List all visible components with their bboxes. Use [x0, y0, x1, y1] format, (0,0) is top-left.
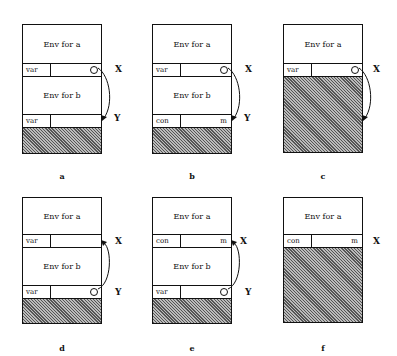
row-tag: var	[23, 235, 51, 247]
row-tag: var	[153, 286, 181, 298]
stack-frame: Env for a var Env for b var	[22, 197, 102, 324]
row-x: con m	[284, 235, 362, 248]
row-tag: con	[153, 235, 181, 247]
pointer-origin-icon	[90, 288, 98, 296]
env-for-a: Env for a	[23, 198, 101, 235]
row-x: con m	[153, 235, 231, 248]
label-x: X	[115, 64, 122, 74]
row-tag: var	[284, 64, 312, 76]
pointer-origin-icon	[220, 66, 228, 74]
label-y: Y	[244, 113, 250, 123]
env-for-b: Env for b	[153, 248, 231, 286]
stack-frame: Env for a con m	[283, 197, 363, 323]
stack-frame: Env for a var	[283, 24, 363, 153]
free-space	[284, 248, 362, 322]
label-x: X	[373, 236, 380, 246]
free-space	[153, 299, 231, 323]
env-for-b: Env for b	[23, 77, 101, 115]
label-x: X	[240, 236, 247, 246]
label-x: X	[373, 64, 380, 74]
caption: b	[152, 171, 232, 181]
pointer-origin-icon	[90, 66, 98, 74]
row-x: var	[284, 64, 362, 77]
env-for-a: Env for a	[284, 25, 362, 64]
row-tag: var	[23, 64, 51, 76]
env-for-a: Env for a	[153, 198, 231, 235]
row-value	[51, 286, 101, 298]
label-y: Y	[245, 287, 251, 297]
row-value	[51, 115, 101, 127]
row-value: m	[181, 235, 231, 247]
row-tag: var	[23, 115, 51, 127]
row-value	[181, 64, 231, 76]
row-value: m	[181, 115, 231, 127]
row-value: m	[312, 235, 362, 247]
env-for-a: Env for a	[284, 198, 362, 235]
free-space	[153, 128, 231, 153]
label-x: X	[115, 236, 122, 246]
env-for-a: Env for a	[23, 25, 101, 64]
free-space	[23, 299, 101, 323]
env-for-b: Env for b	[153, 77, 231, 115]
row-tag: var	[23, 286, 51, 298]
stack-frame: Env for a var Env for b con m	[152, 24, 232, 154]
row-value	[181, 286, 231, 298]
env-for-a: Env for a	[153, 25, 231, 64]
row-y: var	[153, 286, 231, 299]
row-y: var	[23, 115, 101, 128]
pointer-origin-icon	[351, 66, 359, 74]
label-x: X	[245, 64, 252, 74]
row-tag: var	[153, 64, 181, 76]
free-space	[284, 77, 362, 152]
row-x: var	[153, 64, 231, 77]
free-space	[23, 128, 101, 153]
row-x: var	[23, 235, 101, 248]
pointer-origin-icon	[220, 288, 228, 296]
label-y: Y	[115, 287, 121, 297]
caption: c	[283, 171, 363, 181]
caption: d	[22, 343, 102, 353]
row-tag: con	[284, 235, 312, 247]
row-y: var	[23, 286, 101, 299]
row-x: var	[23, 64, 101, 77]
env-for-b: Env for b	[23, 248, 101, 286]
row-y: con m	[153, 115, 231, 128]
caption: e	[152, 343, 232, 353]
row-value	[312, 64, 362, 76]
stack-frame: Env for a con m Env for b var	[152, 197, 232, 324]
caption: a	[22, 171, 102, 181]
label-y: Y	[114, 113, 120, 123]
row-value	[51, 64, 101, 76]
row-tag: con	[153, 115, 181, 127]
caption: f	[283, 343, 363, 353]
stack-frame: Env for a var Env for b var	[22, 24, 102, 154]
row-value	[51, 235, 101, 247]
